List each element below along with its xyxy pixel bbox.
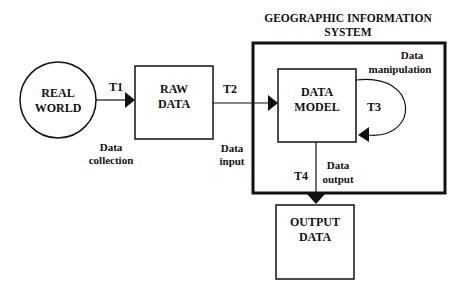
t1-label-line2: collection	[89, 154, 134, 166]
raw-data-label-line2: DATA	[158, 97, 191, 111]
t1-arrowhead-icon	[125, 92, 135, 108]
t3-id: T3	[367, 100, 381, 114]
t4-label-line1: Data	[327, 159, 350, 171]
gis-title-line1: GEOGRAPHIC INFORMATION	[264, 12, 432, 24]
t4-arrowhead-icon	[307, 194, 325, 204]
t2-id: T2	[223, 82, 237, 96]
t1-label-line1: Data	[100, 141, 123, 153]
t2-label-line2: input	[219, 155, 244, 167]
t2-arrowhead-icon	[268, 95, 278, 111]
real-world-label-line1: REAL	[41, 86, 74, 100]
t4-label-line2: output	[322, 173, 354, 185]
real-world-node	[20, 62, 96, 138]
gis-title-line2: SYSTEM	[324, 26, 371, 38]
output-data-label-line1: OUTPUT	[290, 215, 340, 229]
real-world-label-line2: WORLD	[35, 101, 82, 115]
t4-id: T4	[294, 169, 308, 183]
gis-diagram: GEOGRAPHIC INFORMATION SYSTEM REAL WORLD…	[0, 0, 464, 294]
t3-label-line1: Data	[401, 49, 424, 61]
data-model-label-line2: MODEL	[294, 100, 339, 114]
t3-arrowhead-icon	[358, 127, 369, 142]
data-model-label-line1: DATA	[301, 85, 334, 99]
t1-id: T1	[109, 80, 123, 94]
t3-label-line2: manipulation	[369, 63, 432, 75]
raw-data-label-line1: RAW	[160, 82, 188, 96]
t2-label-line1: Data	[221, 142, 244, 154]
output-data-label-line2: DATA	[299, 230, 332, 244]
